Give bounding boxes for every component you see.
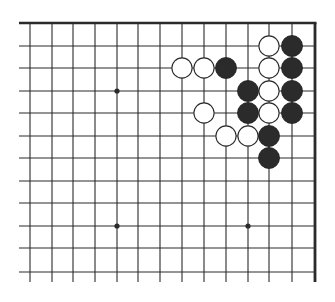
black-stone: [282, 36, 303, 57]
black-stone: [259, 126, 280, 147]
white-stone: [259, 36, 279, 56]
white-stone: [216, 126, 236, 146]
white-stone: [194, 103, 214, 123]
go-board: [0, 0, 335, 302]
black-stone: [216, 58, 237, 79]
stones-layer: [172, 36, 303, 169]
white-stone: [259, 103, 279, 123]
black-stone: [238, 103, 259, 124]
star-point: [114, 88, 119, 93]
black-stone: [238, 81, 259, 102]
black-stone: [282, 58, 303, 79]
white-stone: [238, 126, 258, 146]
white-stone: [194, 58, 214, 78]
black-stone: [259, 148, 280, 169]
black-stone: [282, 81, 303, 102]
white-stone: [259, 58, 279, 78]
white-stone: [172, 58, 192, 78]
star-point: [245, 223, 250, 228]
black-stone: [282, 103, 303, 124]
star-point: [114, 223, 119, 228]
white-stone: [259, 81, 279, 101]
